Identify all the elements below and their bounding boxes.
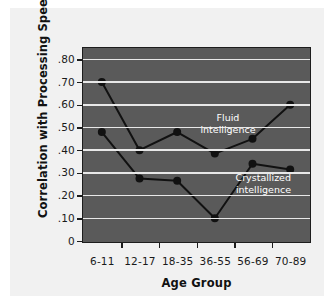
gridline bbox=[83, 218, 310, 220]
data-point-marker bbox=[173, 177, 181, 185]
x-tick-mark bbox=[121, 242, 123, 248]
y-tick-label: .10 bbox=[58, 212, 75, 224]
gridline bbox=[83, 104, 310, 106]
gridline bbox=[83, 195, 310, 197]
x-axis-title: Age Group bbox=[82, 276, 311, 290]
gridline bbox=[83, 59, 310, 61]
y-tick-label: 0 bbox=[68, 235, 75, 247]
x-tick-label: 56-69 bbox=[234, 255, 272, 267]
x-tick-mark bbox=[234, 242, 236, 248]
data-point-marker bbox=[249, 160, 257, 168]
x-tick-label: 36-55 bbox=[197, 255, 235, 267]
plot-area: Fluid intelligence Crystallized intellig… bbox=[82, 47, 311, 243]
x-tick-label: 6-11 bbox=[84, 255, 122, 267]
y-axis-title: Correlation with Processing Speed bbox=[36, 28, 50, 218]
y-tick-label: .40 bbox=[58, 144, 75, 156]
data-point-marker bbox=[173, 128, 181, 136]
y-tick-label: .20 bbox=[58, 189, 75, 201]
annotation-fluid-intelligence: Fluid intelligence bbox=[193, 112, 263, 135]
annotation-crystallized-intelligence: Crystallized intelligence bbox=[203, 172, 291, 195]
y-tick-label: .70 bbox=[58, 76, 75, 88]
data-point-marker bbox=[98, 128, 106, 136]
x-tick-mark bbox=[159, 242, 161, 248]
x-tick-mark bbox=[197, 242, 199, 248]
y-tick-label: .80 bbox=[58, 53, 75, 65]
x-tick-label: 18-35 bbox=[159, 255, 197, 267]
x-tick-label: 70-89 bbox=[272, 255, 310, 267]
chart-figure: Correlation with Processing Speed 0.10.2… bbox=[10, 8, 324, 296]
y-tick-label: .60 bbox=[58, 98, 75, 110]
y-tick-label: .50 bbox=[58, 121, 75, 133]
data-point-marker bbox=[136, 175, 144, 183]
x-tick-mark bbox=[272, 242, 274, 248]
gridline bbox=[83, 81, 310, 83]
gridline bbox=[83, 149, 310, 151]
x-tick-label: 12-17 bbox=[121, 255, 159, 267]
y-tick-label: .30 bbox=[58, 166, 75, 178]
series-layer bbox=[83, 48, 309, 241]
data-point-marker bbox=[249, 135, 257, 143]
